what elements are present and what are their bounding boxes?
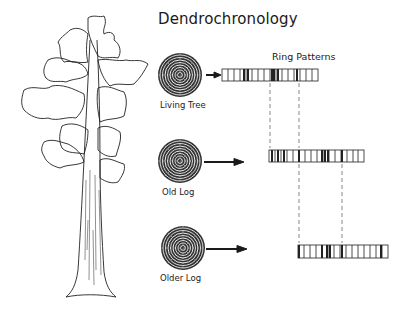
ring-strip-old-log (269, 150, 364, 162)
older-log-label: Older Log (160, 273, 201, 283)
ring-strip-living-tree (222, 69, 318, 81)
older-log-cross-section-icon (161, 226, 205, 270)
diagram-graphics (0, 0, 408, 311)
tree-illustration (22, 16, 148, 297)
old-log-label: Old Log (162, 187, 194, 197)
dendrochronology-diagram: Dendrochronology Ring Patterns (0, 0, 408, 311)
arrows (204, 72, 247, 253)
ring-strip-older-log (298, 245, 388, 258)
living-tree-label: Living Tree (160, 100, 206, 110)
old-log-cross-section-icon (158, 139, 202, 183)
alignment-lines (270, 83, 342, 243)
living-tree-cross-section-icon (158, 53, 202, 97)
